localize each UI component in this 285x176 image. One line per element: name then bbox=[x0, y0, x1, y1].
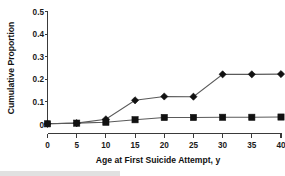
y-tick-label: 0.2 bbox=[33, 75, 45, 84]
chart-figure: Cumulative Proportion 00.10.20.30.40.5 0… bbox=[0, 0, 285, 176]
data-point-square bbox=[103, 119, 109, 125]
scan-artifact bbox=[0, 171, 120, 176]
x-tick-label: 40 bbox=[276, 141, 285, 150]
x-tick-label: 15 bbox=[131, 141, 141, 150]
x-tick-label: 25 bbox=[189, 141, 199, 150]
x-tick-label: 0 bbox=[45, 141, 50, 150]
data-point-square bbox=[220, 114, 226, 120]
data-point-square bbox=[249, 114, 255, 120]
y-tick-label: 0 bbox=[39, 121, 44, 130]
y-tick-label: 0.3 bbox=[33, 53, 45, 62]
y-tick-label: 0.1 bbox=[33, 98, 45, 107]
y-tick-label: 0.4 bbox=[33, 30, 45, 39]
data-point-square bbox=[132, 117, 138, 123]
x-tick-label: 20 bbox=[160, 141, 170, 150]
y-axis-title: Cumulative Proportion bbox=[6, 22, 16, 115]
data-point-square bbox=[190, 114, 196, 120]
chart-background bbox=[0, 0, 285, 176]
data-point-square bbox=[278, 114, 284, 120]
x-axis-title: Age at First Suicide Attempt, y bbox=[96, 155, 221, 165]
cumulative-proportion-chart: Cumulative Proportion 00.10.20.30.40.5 0… bbox=[0, 0, 285, 176]
data-point-square bbox=[44, 121, 50, 127]
x-tick-label: 35 bbox=[247, 141, 257, 150]
y-tick-label: 0.5 bbox=[33, 8, 45, 17]
x-tick-label: 10 bbox=[101, 141, 111, 150]
x-tick-label: 5 bbox=[74, 141, 79, 150]
data-point-square bbox=[74, 120, 80, 126]
data-point-square bbox=[161, 114, 167, 120]
x-tick-label: 30 bbox=[218, 141, 228, 150]
